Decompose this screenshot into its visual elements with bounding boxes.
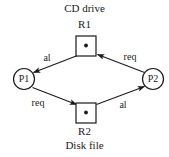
process-label-p2: P2 bbox=[129, 74, 169, 84]
resource-caption-r2: Disk file bbox=[0, 140, 169, 151]
resource-label-r2: R2 bbox=[0, 126, 169, 137]
edge-label-r1-p1: al bbox=[35, 53, 59, 63]
resource-instance-dot-r2 bbox=[84, 111, 88, 115]
process-label-p1: P1 bbox=[0, 74, 48, 84]
resource-allocation-graph-diagram: CD drive R1 R2 Disk file P1 P2 al req re… bbox=[0, 0, 169, 157]
resource-instance-dot-r1 bbox=[84, 44, 88, 48]
resource-label-r1: R1 bbox=[0, 19, 169, 30]
edge-label-p1-r2: req bbox=[26, 98, 50, 108]
resource-caption-r1: CD drive bbox=[0, 3, 169, 14]
edge-label-p2-r1: req bbox=[118, 52, 142, 62]
edge-label-r2-p2: al bbox=[111, 100, 135, 110]
